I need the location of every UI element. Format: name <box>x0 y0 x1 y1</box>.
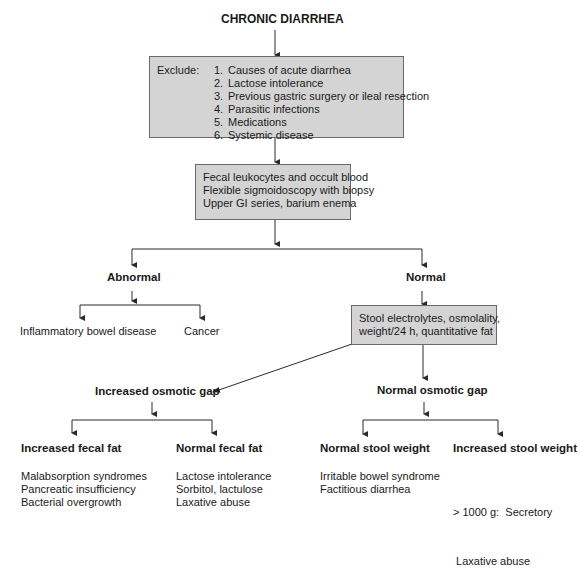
increased-osmotic-gap-label: Increased osmotic gap <box>95 385 220 397</box>
normal-fecal-fat-label: Normal fecal fat <box>176 442 262 454</box>
normal-stool-weight-list: Irritable bowel syndrome Factitious diar… <box>320 470 440 496</box>
exclude-item: 4.Parasitic infections <box>214 103 429 116</box>
item-text: Previous gastric surgery or ileal resect… <box>228 90 429 103</box>
item-number: 1. <box>214 64 228 77</box>
exclude-item: 6.Systemic disease <box>214 129 429 142</box>
test-line: Fecal leukocytes and occult blood <box>203 171 350 184</box>
item-number: 6. <box>214 129 228 142</box>
item-text: Lactose intolerance <box>228 77 323 90</box>
stool-test-line: Stool electrolytes, osmolality, <box>359 312 496 325</box>
normal-osmotic-gap-label: Normal osmotic gap <box>377 384 488 396</box>
list-item: Irritable bowel syndrome <box>320 470 440 483</box>
item-number: 2. <box>214 77 228 90</box>
stool-test-line: weight/24 h, quantitative fat <box>359 325 496 338</box>
normal-stool-weight-label: Normal stool weight <box>320 442 430 454</box>
tests-box: Fecal leukocytes and occult blood Flexib… <box>195 164 351 220</box>
outcome-ibd: Inflammatory bowel disease <box>20 325 156 338</box>
exclude-item: 3.Previous gastric surgery or ileal rese… <box>214 90 429 103</box>
exclude-box: Exclude: 1.Causes of acute diarrhea 2.La… <box>149 56 404 138</box>
list-item: Laxative abuse <box>453 555 552 568</box>
item-text: Causes of acute diarrhea <box>228 64 351 77</box>
increased-fecal-fat-label: Increased fecal fat <box>21 442 121 454</box>
list-item: > 1000 g: Secretory <box>453 506 552 519</box>
list-item: Pancreatic insufficiency <box>21 483 147 496</box>
exclude-item: 5.Medications <box>214 116 429 129</box>
abnormal-label: Abnormal <box>107 271 161 283</box>
exclude-item: 1.Causes of acute diarrhea <box>214 64 429 77</box>
test-line: Upper GI series, barium enema <box>203 197 350 210</box>
list-item: Bacterial overgrowth <box>21 496 147 509</box>
item-number: 4. <box>214 103 228 116</box>
item-text: Medications <box>228 116 287 129</box>
increased-fecal-fat-list: Malabsorption syndromes Pancreatic insuf… <box>21 470 147 509</box>
exclude-list: 1.Causes of acute diarrhea 2.Lactose int… <box>214 64 429 142</box>
item-number: 3. <box>214 90 228 103</box>
chart-title: CHRONIC DIARRHEA <box>221 12 344 26</box>
list-item: Factitious diarrhea <box>320 483 440 496</box>
item-number: 5. <box>214 116 228 129</box>
normal-fecal-fat-list: Lactose intolerance Sorbitol, lactulose … <box>176 470 271 509</box>
outcome-cancer: Cancer <box>184 325 219 338</box>
list-item: Sorbitol, lactulose <box>176 483 271 496</box>
item-text: Parasitic infections <box>228 103 320 116</box>
increased-stool-weight-label: Increased stool weight <box>453 442 577 454</box>
list-item: Lactose intolerance <box>176 470 271 483</box>
test-line: Flexible sigmoidoscopy with biopsy <box>203 184 350 197</box>
normal-label: Normal <box>406 271 446 283</box>
increased-stool-weight-list: > 1000 g: Secretory Laxative abuse <box>453 470 552 569</box>
stool-tests-box: Stool electrolytes, osmolality, weight/2… <box>351 305 497 345</box>
list-item: Laxative abuse <box>176 496 271 509</box>
exclude-label: Exclude: <box>157 64 199 77</box>
exclude-item: 2.Lactose intolerance <box>214 77 429 90</box>
item-text: Systemic disease <box>228 129 314 142</box>
list-item: Malabsorption syndromes <box>21 470 147 483</box>
